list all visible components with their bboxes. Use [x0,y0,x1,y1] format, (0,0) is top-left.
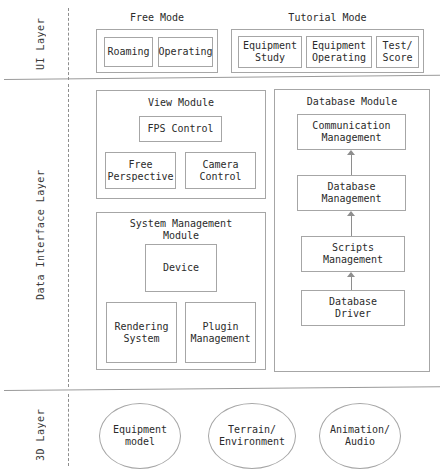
arrow-scripts-to-database [347,211,356,236]
layer-label-data-interface: Data Interface Layer [36,150,46,320]
database-module-group: Database Module Communication Management… [274,89,430,372]
separator-ui-data [4,75,440,80]
arrow-database-to-communication [347,150,356,175]
node-plugin-management[interactable]: Plugin Management [185,302,256,363]
node-animation-audio[interactable]: Animation/ Audio [319,403,401,469]
node-database-driver[interactable]: Database Driver [301,290,405,326]
tutorial-mode-group: Equipment Study Equipment Operating Test… [231,29,424,73]
separator-data-3d [4,386,440,391]
view-module-group: View Module FPS Control Free Perspective… [96,90,266,199]
node-fps-control[interactable]: FPS Control [139,116,222,142]
node-terrain-environment[interactable]: Terrain/ Environment [208,403,296,469]
view-module-title: View Module [97,97,265,109]
system-management-module-title: System Management Module [97,218,265,242]
node-rendering-system[interactable]: Rendering System [106,302,177,363]
tutorial-mode-caption: Tutorial Mode [231,12,424,23]
node-communication-management[interactable]: Communication Management [297,114,406,150]
divider-data-layer [68,84,69,387]
node-test-score[interactable]: Test/ Score [376,36,419,68]
free-mode-group: Roaming Operating [96,29,218,73]
architecture-diagram: UI Layer Data Interface Layer 3D Layer F… [0,0,443,475]
arrow-driver-to-scripts [347,272,356,290]
node-camera-control[interactable]: Camera Control [185,152,256,189]
layer-label-3d: 3D Layer [36,405,46,465]
free-mode-caption: Free Mode [96,12,218,23]
node-scripts-management[interactable]: Scripts Management [301,236,405,272]
node-operating[interactable]: Operating [158,37,213,67]
divider-ui-layer [68,8,69,80]
node-equipment-study[interactable]: Equipment Study [238,36,302,68]
node-free-perspective[interactable]: Free Perspective [105,152,176,189]
node-roaming[interactable]: Roaming [104,37,153,67]
node-device[interactable]: Device [145,244,217,292]
system-management-module-group: System Management Module Device Renderin… [96,212,266,370]
divider-3d-layer [68,394,69,466]
node-equipment-model[interactable]: Equipment model [99,403,181,469]
node-equipment-operating[interactable]: Equipment Operating [306,36,372,68]
database-module-title: Database Module [275,96,429,108]
layer-label-ui: UI Layer [36,14,46,74]
node-database-management[interactable]: Database Management [297,175,406,211]
